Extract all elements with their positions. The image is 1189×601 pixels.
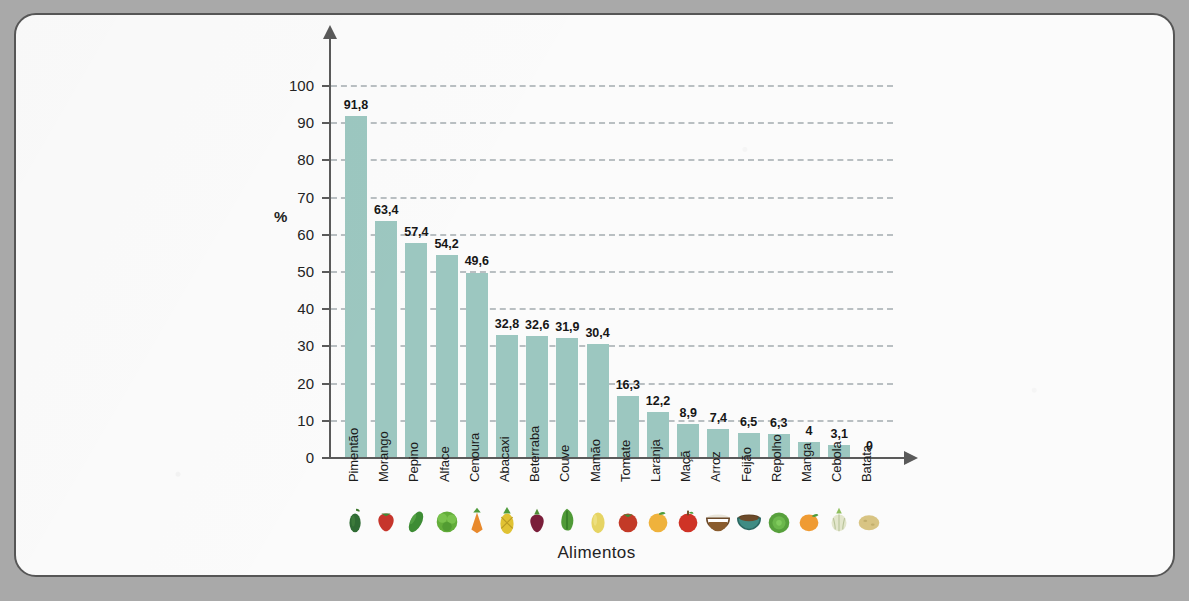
category-label: Maçã [678, 451, 693, 482]
x-axis-title: Alimentos [16, 543, 1175, 563]
cabbage-icon [764, 505, 794, 535]
y-tick-label-80: 80 [268, 151, 314, 168]
potato-icon [854, 505, 884, 535]
y-tick-label-100: 100 [268, 77, 314, 94]
bar-value-label: 54,2 [434, 237, 458, 251]
bar-value-label: 49,6 [465, 254, 489, 268]
y-tick-label-10: 10 [268, 411, 314, 428]
y-tick-label-40: 40 [268, 300, 314, 317]
bar-value-label: 63,4 [374, 203, 398, 217]
gridline-100 [331, 85, 893, 87]
bar-value-label: 57,4 [404, 225, 428, 239]
bar-value-label: 16,3 [616, 378, 640, 392]
y-axis-title: % [274, 208, 287, 225]
strawberry-icon [371, 505, 401, 535]
category-label: Couve [557, 445, 572, 482]
tomato-icon [613, 505, 643, 535]
bar-value-label: 30,4 [585, 326, 609, 340]
category-label: Repolho [769, 434, 784, 482]
gridline-70 [331, 197, 893, 199]
gridline-80 [331, 159, 893, 161]
bar-chart: 0102030405060708090100 91,863,457,454,24… [16, 15, 1175, 577]
category-label: Alface [437, 446, 452, 482]
y-tick-mark-80 [322, 159, 331, 161]
category-label: Pepino [406, 442, 421, 482]
bar-value-label: 91,8 [344, 98, 368, 112]
bar-value-label: 12,2 [646, 394, 670, 408]
category-label: Feijão [739, 447, 754, 482]
beetroot-icon [522, 505, 552, 535]
papaya-icon [583, 505, 613, 535]
category-label: Beterraba [527, 426, 542, 482]
mango-icon [794, 505, 824, 535]
y-tick-mark-40 [322, 308, 331, 310]
bar-value-label: 31,9 [555, 320, 579, 334]
category-label: Mamão [588, 439, 603, 482]
category-label: Laranja [648, 439, 663, 482]
y-tick-mark-100 [322, 85, 331, 87]
y-tick-label-30: 30 [268, 337, 314, 354]
y-tick-label-70: 70 [268, 188, 314, 205]
category-label: Tomate [618, 440, 633, 482]
category-label: Cebola [829, 441, 844, 482]
category-label: Cenoura [467, 433, 482, 482]
category-label: Pimentão [346, 428, 361, 482]
bar-value-label: 3,1 [830, 427, 847, 441]
bar [375, 221, 397, 457]
kale-icon [552, 505, 582, 535]
y-tick-mark-10 [322, 420, 331, 422]
carrot-icon [462, 505, 492, 535]
bar [345, 116, 367, 457]
bar [405, 243, 427, 457]
bar-value-label: 6,5 [740, 415, 757, 429]
category-label: Arroz [708, 451, 723, 482]
y-tick-mark-60 [322, 234, 331, 236]
y-tick-label-0: 0 [268, 449, 314, 466]
y-axis-arrowhead [323, 25, 337, 39]
y-tick-mark-30 [322, 345, 331, 347]
bar [436, 255, 458, 457]
rice-bowl-icon [703, 505, 733, 535]
y-tick-mark-0 [322, 457, 331, 459]
category-label: Abacaxi [497, 436, 512, 482]
bar-value-label: 8,9 [679, 406, 696, 420]
lettuce-icon [432, 505, 462, 535]
bar-value-label: 32,8 [495, 317, 519, 331]
y-axis-line [329, 37, 331, 458]
y-tick-label-20: 20 [268, 374, 314, 391]
bar-value-label: 4 [806, 424, 813, 438]
onion-icon [824, 505, 854, 535]
y-tick-label-50: 50 [268, 263, 314, 280]
apple-icon [673, 505, 703, 535]
gridline-90 [331, 122, 893, 124]
x-axis-arrowhead [904, 451, 918, 465]
y-tick-label-90: 90 [268, 114, 314, 131]
cucumber-icon [401, 505, 431, 535]
pepper-icon [341, 505, 371, 535]
bar [556, 338, 578, 457]
category-label: Manga [799, 443, 814, 482]
pineapple-icon [492, 505, 522, 535]
beans-bowl-icon [734, 505, 764, 535]
orange-icon [643, 505, 673, 535]
bar [466, 273, 488, 458]
bar-value-label: 7,4 [710, 411, 727, 425]
bar-value-label: 32,6 [525, 318, 549, 332]
category-label: Batata [859, 445, 874, 482]
y-tick-label-60: 60 [268, 225, 314, 242]
y-tick-mark-50 [322, 271, 331, 273]
chart-figure-frame: 0102030405060708090100 91,863,457,454,24… [14, 13, 1175, 577]
y-tick-mark-20 [322, 383, 331, 385]
y-tick-mark-70 [322, 197, 331, 199]
bar-value-label: 6,3 [770, 416, 787, 430]
category-label: Morango [376, 431, 391, 482]
y-tick-mark-90 [322, 122, 331, 124]
